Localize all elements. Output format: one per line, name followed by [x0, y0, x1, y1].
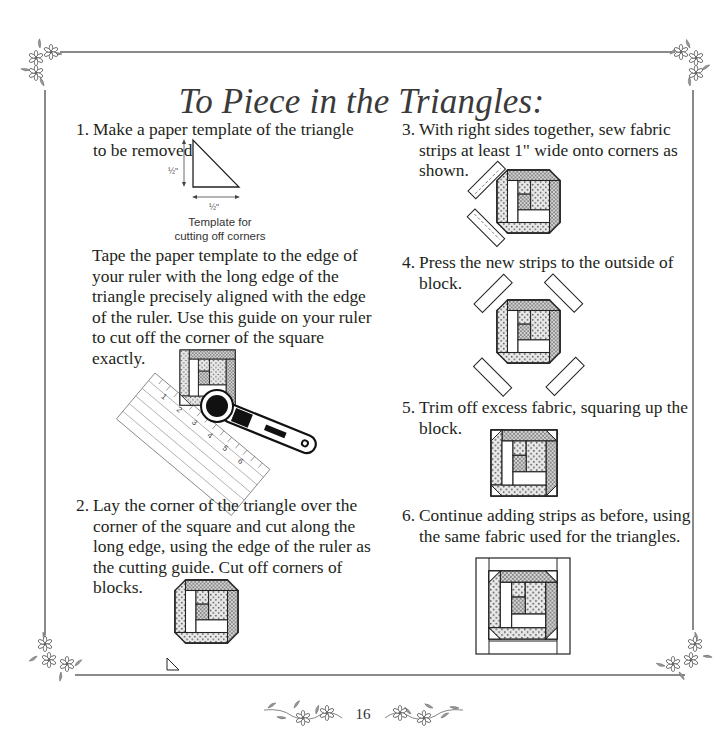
- dimension-horizontal: ½": [209, 202, 219, 212]
- frame-left-line: [44, 90, 46, 635]
- step-6: 6. Continue adding strips as before, usi…: [402, 505, 702, 546]
- ruler-cutter-figure: 1 2 3 4 5 6: [100, 340, 340, 490]
- step-number: 4.: [402, 252, 415, 273]
- footer-vine-left-icon: [262, 700, 347, 730]
- floral-corner-bottom-left-icon: [25, 628, 85, 683]
- step-5-squared-block-figure: [491, 430, 561, 500]
- footer-vine-right-icon: [380, 700, 465, 730]
- template-caption: Template for cutting off corners: [160, 215, 280, 243]
- step-4-pressed-strips-figure: [470, 278, 590, 393]
- step-number: 1.: [76, 119, 89, 140]
- page-title: To Piece in the Triangles:: [0, 82, 723, 122]
- step-number: 5.: [402, 397, 415, 418]
- floral-corner-bottom-right-icon: [655, 628, 715, 683]
- triangle-template-figure: [170, 130, 280, 210]
- page-number: 16: [352, 706, 374, 723]
- step-number: 3.: [402, 119, 415, 140]
- caption-line-1: Template for: [160, 215, 280, 229]
- caption-line-2: cutting off corners: [160, 229, 280, 243]
- step-2-trimmed-block-figure: [175, 580, 255, 680]
- step-6-bordered-block-figure: [476, 558, 571, 658]
- step-number: 6.: [402, 505, 415, 526]
- step-3-strips-figure: [485, 165, 575, 245]
- frame-bottom-line: [75, 674, 685, 676]
- step-number: 2.: [76, 495, 89, 516]
- step-text: Continue adding strips as before, using …: [402, 505, 704, 546]
- dimension-vertical: ½": [168, 166, 178, 176]
- frame-top-line: [60, 51, 675, 53]
